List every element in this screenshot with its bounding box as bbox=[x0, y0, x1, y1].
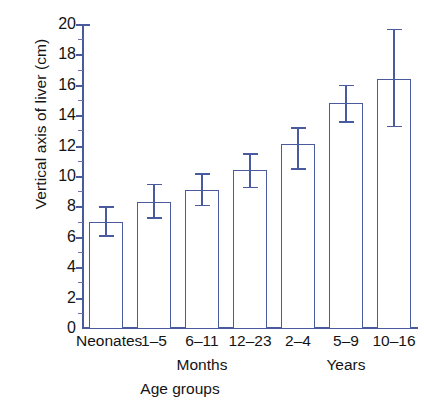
y-tick-mark bbox=[76, 85, 83, 87]
y-tick-mark-minor bbox=[78, 161, 83, 162]
x-group-label: Months bbox=[142, 356, 262, 374]
y-tick-mark-minor bbox=[78, 70, 83, 71]
chart-figure: Vertical axis of liver (cm) 024681012141… bbox=[0, 0, 424, 414]
plot-area bbox=[82, 24, 418, 328]
y-tick-mark bbox=[76, 146, 83, 148]
y-tick-label: 10 bbox=[36, 168, 76, 184]
y-axis-top-cap bbox=[82, 24, 90, 26]
y-tick-mark-minor bbox=[78, 191, 83, 192]
y-tick-label: 0 bbox=[36, 320, 76, 336]
bar bbox=[89, 222, 123, 328]
y-tick-label: 2 bbox=[36, 290, 76, 306]
error-bar-line bbox=[345, 85, 347, 121]
y-tick-mark bbox=[76, 54, 83, 56]
x-axis-tick-labels: Neonates1–56–1112–232–45–910–16 bbox=[82, 332, 424, 356]
bar bbox=[137, 202, 171, 328]
error-bar-cap-lower bbox=[195, 205, 210, 207]
y-tick-mark-minor bbox=[78, 252, 83, 253]
error-bar-cap-upper bbox=[99, 206, 114, 208]
bar bbox=[329, 103, 363, 328]
y-tick-mark-minor bbox=[78, 39, 83, 40]
error-bar-line bbox=[393, 29, 395, 126]
y-axis-tick-labels: 02468101214161820 bbox=[32, 0, 76, 414]
error-bar-cap-upper bbox=[291, 127, 306, 129]
y-tick-label: 14 bbox=[36, 107, 76, 123]
error-bar-cap-lower bbox=[243, 187, 258, 189]
error-bar-cap-upper bbox=[243, 153, 258, 155]
x-tick-label: 10–16 bbox=[364, 332, 424, 350]
bar bbox=[185, 190, 219, 328]
y-tick-mark bbox=[76, 176, 83, 178]
y-tick-mark-minor bbox=[78, 100, 83, 101]
error-bar-line bbox=[201, 173, 203, 205]
y-tick-label: 6 bbox=[36, 229, 76, 245]
y-tick-mark-minor bbox=[78, 130, 83, 131]
error-bar-line bbox=[153, 184, 155, 217]
error-bar-line bbox=[249, 153, 251, 186]
error-bar-cap-upper bbox=[195, 173, 210, 175]
error-bar-cap-upper bbox=[147, 184, 162, 186]
error-bar-cap-lower bbox=[339, 121, 354, 123]
y-tick-mark bbox=[76, 237, 83, 239]
error-bar-cap-lower bbox=[387, 126, 402, 128]
error-bar-line bbox=[105, 206, 107, 235]
y-tick-label: 12 bbox=[36, 138, 76, 154]
y-tick-mark bbox=[76, 267, 83, 269]
y-tick-label: 4 bbox=[36, 259, 76, 275]
y-tick-mark bbox=[76, 24, 83, 26]
error-bar-cap-upper bbox=[387, 29, 402, 31]
y-tick-label: 16 bbox=[36, 77, 76, 93]
error-bar-cap-lower bbox=[291, 168, 306, 170]
x-axis-title: Age groups bbox=[110, 380, 250, 398]
x-group-label: Years bbox=[286, 356, 406, 374]
y-tick-mark bbox=[76, 298, 83, 300]
bar bbox=[233, 170, 267, 328]
y-tick-mark bbox=[76, 206, 83, 208]
y-tick-mark-minor bbox=[78, 222, 83, 223]
y-tick-label: 8 bbox=[36, 198, 76, 214]
y-tick-mark-minor bbox=[78, 282, 83, 283]
error-bar-line bbox=[297, 127, 299, 168]
y-tick-mark-minor bbox=[78, 313, 83, 314]
error-bar-cap-lower bbox=[147, 217, 162, 219]
y-tick-label: 18 bbox=[36, 46, 76, 62]
y-tick-label: 20 bbox=[36, 16, 76, 32]
bar bbox=[281, 144, 315, 328]
error-bar-cap-lower bbox=[99, 235, 114, 237]
error-bar-cap-upper bbox=[339, 85, 354, 87]
y-tick-mark bbox=[76, 115, 83, 117]
